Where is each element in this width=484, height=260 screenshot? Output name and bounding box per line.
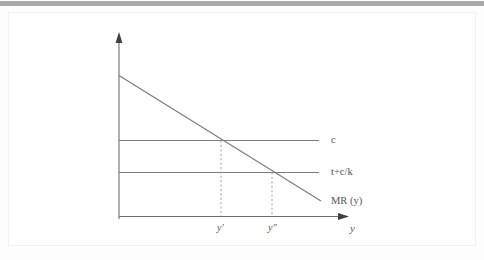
tick-label-second-quantity: y″ [268, 223, 277, 233]
y-axis [116, 32, 123, 219]
tick-label-first-quantity: y′ [217, 223, 224, 233]
top-gray-bar [0, 1, 484, 6]
label-tax-plus-cost: t+c/k [331, 167, 353, 178]
economics-line-chart [9, 13, 477, 247]
x-axis-arrowhead [338, 213, 349, 220]
x-axis [119, 213, 349, 220]
x-axis-label: y [350, 223, 355, 234]
label-marginal-revenue: MR (y) [331, 196, 362, 207]
label-marginal-cost: c [331, 135, 336, 146]
marginal-revenue-line [119, 76, 321, 202]
y-axis-arrowhead [116, 32, 123, 43]
figure-page: c t+c/k MR (y) y′ y″ y [0, 0, 484, 260]
figure-card: c t+c/k MR (y) y′ y″ y [8, 12, 476, 246]
